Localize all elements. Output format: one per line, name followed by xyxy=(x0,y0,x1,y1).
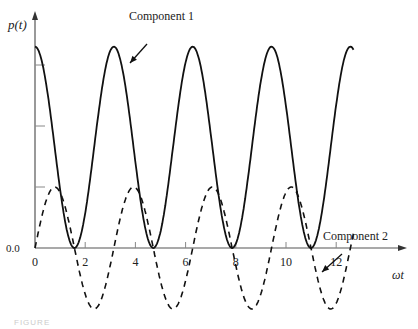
chart-canvas: 024681012 p(t) ωt 0.0 Component 1 Compon… xyxy=(0,0,418,329)
figure-caption: FIGURE xyxy=(14,318,50,327)
x-tick-label: 12 xyxy=(330,255,342,269)
x-tick-label: 6 xyxy=(183,255,189,269)
series-group xyxy=(35,47,354,309)
x-axis-label: ωt xyxy=(392,268,404,282)
component-1-label: Component 1 xyxy=(129,9,194,23)
y-axis-arrow-icon xyxy=(32,11,38,20)
x-tick-label: 0 xyxy=(32,255,38,269)
x-tick-label: 4 xyxy=(132,255,138,269)
component-2-label: Component 2 xyxy=(323,229,388,243)
x-tick-label: 2 xyxy=(82,255,88,269)
y-origin-label: 0.0 xyxy=(6,242,20,254)
x-tick-label: 10 xyxy=(280,255,292,269)
x-axis-arrow-icon xyxy=(398,245,407,251)
annotations xyxy=(130,44,342,272)
y-axis-label: p(t) xyxy=(7,17,27,32)
series-component-1 xyxy=(35,47,354,248)
